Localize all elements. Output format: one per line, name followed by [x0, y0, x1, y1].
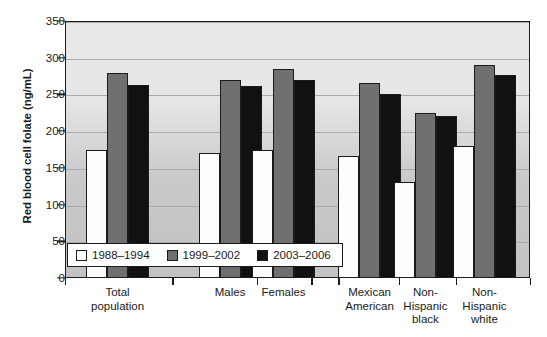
y-axis-tick-marks — [57, 21, 65, 278]
gridline — [66, 59, 529, 60]
gray-square-swatch-icon — [167, 250, 178, 261]
x-axis-tick-label: Females — [261, 286, 305, 300]
white-square-swatch-icon — [76, 250, 87, 261]
x-axis-tick-marks — [65, 278, 530, 286]
legend-item: 2003–2006 — [257, 249, 331, 261]
x-axis-tick-mark — [456, 278, 457, 285]
gridline — [66, 206, 529, 207]
y-axis-tick-mark — [57, 204, 65, 205]
y-axis-tick-mark — [57, 20, 65, 21]
x-axis-tick-mark — [311, 278, 312, 285]
y-axis-tick-mark — [57, 57, 65, 58]
legend-item-label: 1988–1994 — [92, 249, 150, 261]
legend-item-label: 2003–2006 — [273, 249, 331, 261]
legend-item: 1999–2002 — [167, 249, 241, 261]
x-axis-tick-label: Non-Hispanicwhite — [462, 286, 506, 327]
x-axis-tick-label: Non-Hispanicblack — [403, 286, 447, 327]
x-axis-tick-label: Males — [215, 286, 246, 300]
x-axis-tick-mark — [172, 278, 173, 285]
y-axis-tick-mark — [57, 277, 65, 278]
y-axis-tick-mark — [57, 130, 65, 131]
x-axis-tick-mark — [399, 278, 400, 285]
gridline — [66, 132, 529, 133]
legend-item-label: 1999–2002 — [183, 249, 241, 261]
plot-area — [65, 21, 530, 278]
gridline — [66, 22, 529, 23]
gridline — [66, 95, 529, 96]
x-axis-tick-mark — [530, 278, 531, 285]
x-axis-tick-mark — [65, 278, 66, 285]
x-axis-tick-label: Totalpopulation — [91, 286, 144, 313]
x-axis-tick-labels: TotalpopulationMalesFemalesMexicanAmeric… — [65, 286, 530, 336]
x-axis-tick-mark — [338, 278, 339, 285]
legend-item: 1988–1994 — [76, 249, 150, 261]
y-axis-tick-mark — [57, 241, 65, 242]
y-axis-tick-mark — [57, 94, 65, 95]
x-axis-tick-mark — [257, 278, 258, 285]
bar-chart: Red blood cell folate (ng/mL) 0501001502… — [0, 0, 547, 337]
legend: 1988–1994 1999–2002 2003–2006 — [67, 243, 343, 267]
gridline — [66, 169, 529, 170]
black-square-swatch-icon — [257, 250, 268, 261]
x-axis-tick-label: MexicanAmerican — [345, 286, 394, 313]
y-axis-tick-mark — [57, 167, 65, 168]
